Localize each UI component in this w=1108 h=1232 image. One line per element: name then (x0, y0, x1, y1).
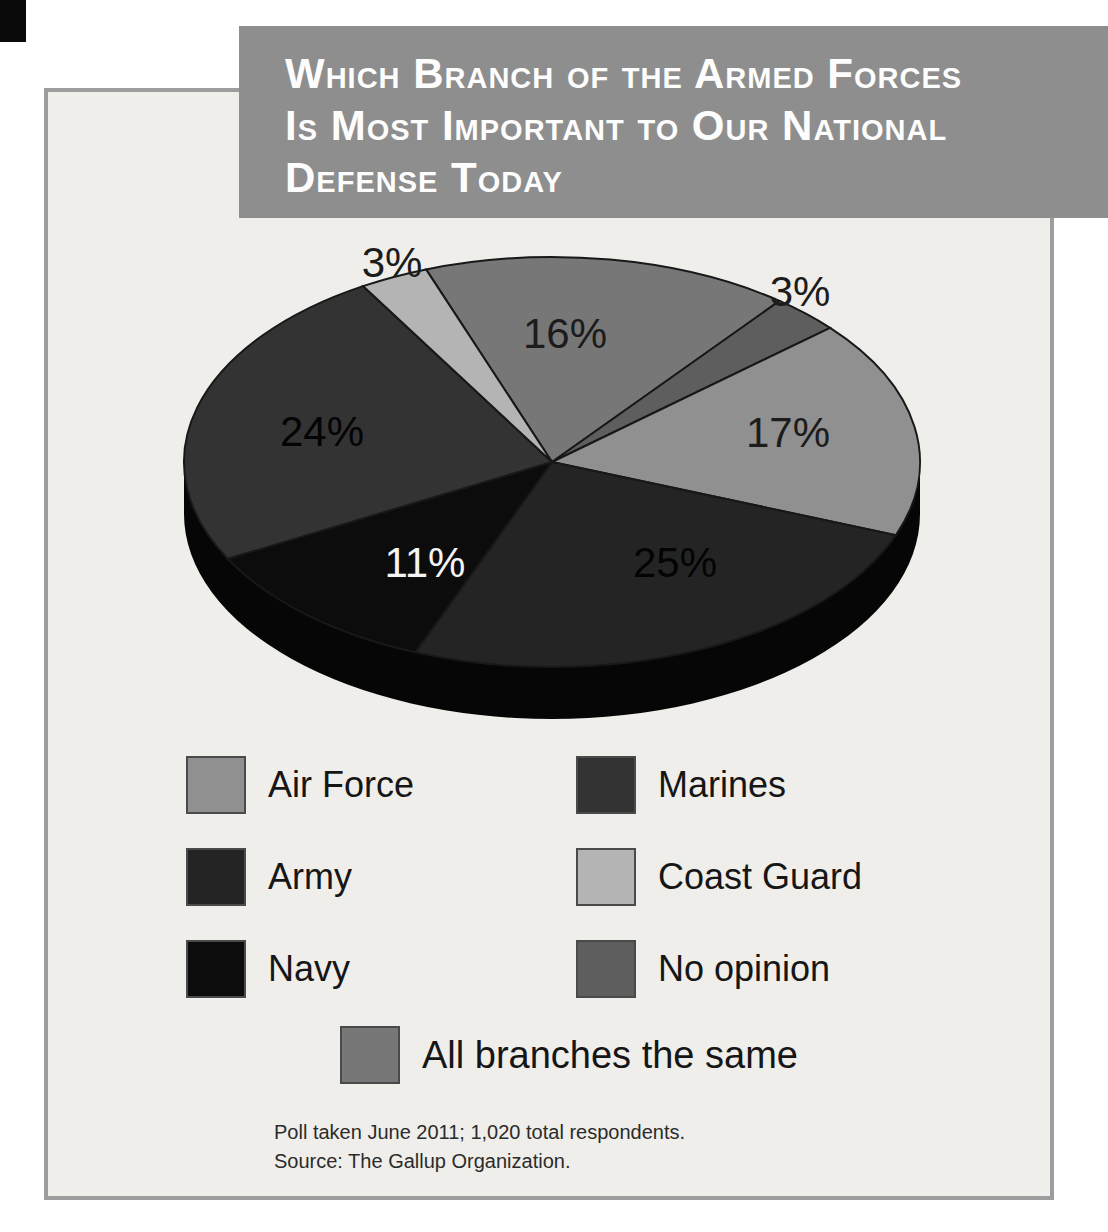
chart-title-line-2: Is Most Important to Our National (285, 100, 1078, 152)
legend-swatch-marines (576, 756, 636, 814)
legend-label-all-branches-same: All branches the same (422, 1026, 798, 1084)
pie-label-coast-guard: 3% (362, 239, 423, 286)
chart-title-line-3: Defense Today (285, 152, 1078, 204)
legend-item-coast-guard: Coast Guard (576, 848, 862, 906)
legend-label-air-force: Air Force (268, 756, 414, 814)
legend-swatch-air-force (186, 756, 246, 814)
pie-label-all-branches-same: 16% (523, 310, 607, 357)
pie-label-marines: 24% (280, 408, 364, 455)
legend-label-coast-guard: Coast Guard (658, 848, 862, 906)
legend-swatch-no-opinion (576, 940, 636, 998)
poll-note: Poll taken June 2011; 1,020 total respon… (274, 1118, 685, 1147)
source-notes: Poll taken June 2011; 1,020 total respon… (274, 1118, 685, 1176)
legend-label-marines: Marines (658, 756, 786, 814)
legend-item-marines: Marines (576, 756, 786, 814)
legend-item-all-branches-same: All branches the same (340, 1026, 798, 1084)
legend-swatch-navy (186, 940, 246, 998)
legend-swatch-coast-guard (576, 848, 636, 906)
title-banner: Which Branch of the Armed Forces Is Most… (239, 26, 1108, 218)
legend-item-navy: Navy (186, 940, 350, 998)
legend-label-no-opinion: No opinion (658, 940, 830, 998)
legend-swatch-all-branches-same (340, 1026, 400, 1084)
legend-label-navy: Navy (268, 940, 350, 998)
pie-label-air-force: 17% (746, 409, 830, 456)
page: Which Branch of the Armed Forces Is Most… (0, 0, 1108, 1232)
legend-label-army: Army (268, 848, 352, 906)
pie-label-navy: 11% (385, 539, 466, 586)
pie-label-army: 25% (633, 539, 717, 586)
legend-swatch-army (186, 848, 246, 906)
chart-title-line-1: Which Branch of the Armed Forces (285, 48, 1078, 100)
legend-item-army: Army (186, 848, 352, 906)
legend-item-air-force: Air Force (186, 756, 414, 814)
legend-item-no-opinion: No opinion (576, 940, 830, 998)
source-note: Source: The Gallup Organization. (274, 1147, 685, 1176)
pie-label-no-opinion: 3% (770, 268, 831, 315)
